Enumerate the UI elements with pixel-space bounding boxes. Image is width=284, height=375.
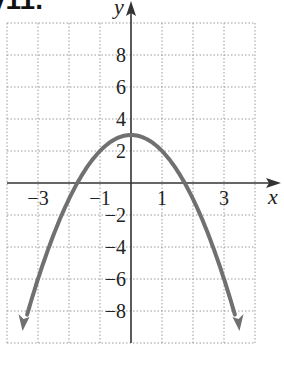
y-tick-label: −2: [105, 204, 126, 226]
x-tick-label: 3: [219, 187, 229, 209]
y-tick-label: −6: [105, 268, 126, 290]
x-axis-label: x: [267, 184, 278, 209]
y-tick-label: −4: [105, 236, 126, 258]
x-tick-label: 1: [157, 187, 167, 209]
y-axis-label: y: [112, 0, 124, 19]
y-tick-label: −8: [105, 300, 126, 322]
y-tick-label: 2: [116, 140, 126, 162]
axes: xy: [7, 0, 281, 343]
y-tick-label: 4: [116, 108, 126, 130]
left-arrowhead-icon: [19, 314, 30, 331]
y-tick-label: 8: [116, 44, 126, 66]
x-tick-label: −3: [27, 187, 48, 209]
parabola-graph: xy −3−1138642−2−4−6−8: [0, 0, 284, 375]
y-tick-label: 6: [116, 76, 126, 98]
right-arrowhead-icon: [233, 314, 244, 331]
